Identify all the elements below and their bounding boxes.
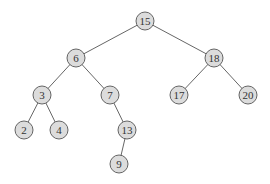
node-label: 2: [21, 124, 27, 136]
tree-node-2: 2: [15, 121, 33, 139]
node-label: 7: [107, 89, 113, 101]
tree-node-20: 20: [239, 86, 257, 104]
tree-node-15: 15: [136, 12, 154, 30]
tree-node-3: 3: [33, 86, 51, 104]
tree-node-4: 4: [50, 121, 68, 139]
tree-node-6: 6: [67, 49, 85, 67]
tree-node-9: 9: [110, 155, 128, 173]
node-label: 17: [174, 89, 186, 101]
edge-15-18: [145, 21, 214, 58]
node-label: 9: [116, 158, 122, 170]
node-label: 3: [39, 89, 45, 101]
node-label: 4: [56, 124, 62, 136]
tree-node-13: 13: [118, 121, 136, 139]
node-label: 13: [122, 124, 134, 136]
tree-nodes: 1561837172024139: [15, 12, 257, 173]
node-label: 18: [209, 52, 221, 64]
tree-node-18: 18: [205, 49, 223, 67]
node-label: 6: [73, 52, 79, 64]
tree-node-17: 17: [170, 86, 188, 104]
edge-15-6: [76, 21, 145, 58]
tree-node-7: 7: [101, 86, 119, 104]
node-label: 20: [243, 89, 255, 101]
node-label: 15: [140, 15, 152, 27]
tree-canvas: 1561837172024139: [0, 0, 270, 184]
tree-edges: [24, 21, 248, 164]
binary-search-tree-diagram: 1561837172024139: [0, 0, 270, 184]
